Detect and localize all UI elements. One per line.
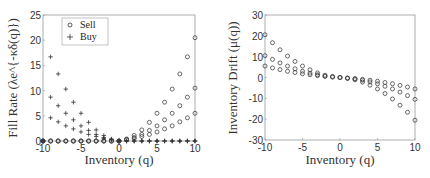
drift-point [376,79,380,83]
drift-point [391,87,395,91]
buy-point [170,139,174,143]
left-x-tick-label: 10 [189,143,201,154]
left-y-tick-label: 20 [30,35,42,46]
drift-point [271,57,275,61]
buy-point [56,104,60,108]
sell-point [147,128,151,132]
right-y-axis-label: Inventory Drift (μ(q)) [225,21,240,134]
drift-point [398,90,402,94]
buy-point [94,128,98,132]
fill-rate-chart: -10-505100510152025 Sell Buy Inventory (… [5,10,201,167]
left-legend: Sell Buy [62,18,108,45]
buy-point [64,111,68,115]
buy-point [71,118,75,122]
buy-point [178,139,182,143]
drift-point [406,85,410,89]
legend-sell-label: Sell [80,19,96,30]
right-x-tick-label: 10 [409,142,421,153]
buy-point [86,120,90,124]
drift-point [406,110,410,114]
sell-point [178,72,182,76]
buy-point [147,139,151,143]
sell-point [155,124,159,128]
drift-point [286,69,290,73]
figure: -10-505100510152025 Sell Buy Inventory (… [0,0,430,178]
buy-point [94,134,98,138]
left-x-tick-label: 5 [154,143,160,154]
buy-point [86,128,90,132]
drift-point [398,103,402,107]
left-y-axis-label: Fill Rate (λe^{-κδ(q)}) [5,18,20,138]
sell-point [178,120,182,124]
sell-point [170,111,174,115]
inventory-drift-chart: -10-50510-30-20-100102030 Inventory (q) … [225,10,421,167]
drift-point [271,41,275,45]
right-y-tick-label: 20 [252,31,264,42]
legend-buy-label: Buy [80,31,97,42]
right-y-tick-label: 0 [257,73,263,84]
sell-point [163,100,167,104]
right-x-axis-label: Inventory (q) [306,152,375,167]
left-y-tick-label: 25 [30,10,42,21]
buy-point [162,139,166,143]
buy-point [48,116,52,120]
drift-point [293,59,297,63]
drift-point [338,76,342,80]
sell-point [185,116,189,120]
buy-point [79,111,83,115]
buy-point [79,124,83,128]
buy-point [71,100,75,104]
buy-point [48,95,52,99]
buy-point [64,124,68,128]
buy-point [48,55,52,59]
sell-point [170,124,174,128]
right-y-tick-label: 30 [252,10,264,21]
drift-point [398,83,402,87]
sell-point [163,118,167,122]
drift-point [278,61,282,65]
right-x-tick-label: 5 [375,142,381,153]
right-y-tick-label: -10 [249,93,264,104]
buy-point [56,72,60,76]
left-x-axis-label: Inventory (q) [85,152,154,167]
buy-point [86,132,90,136]
buy-point [79,130,83,134]
sell-point [155,111,159,115]
drift-point [301,72,305,76]
drift-point [406,94,410,98]
sell-point [147,120,151,124]
left-y-tick-label: 5 [35,111,41,122]
right-plot-frame [265,15,415,140]
buy-point [140,139,144,143]
left-y-tick-label: 10 [30,86,42,97]
buy-point [71,127,75,131]
sell-point [170,87,174,91]
drift-point [278,48,282,52]
drift-point [271,66,275,70]
sell-point [155,130,159,134]
sell-point [178,104,182,108]
right-y-tick-label: -30 [249,135,264,146]
sell-point [140,128,144,132]
right-y-tick-label: -20 [249,114,264,125]
sell-point [185,95,189,99]
left-y-tick-label: 15 [30,60,42,71]
right-y-tick-label: 10 [252,52,264,63]
drift-point [391,82,395,86]
sell-point [163,127,167,131]
drift-point [383,92,387,96]
drift-point [286,64,290,68]
buy-point [64,87,68,91]
sell-point [147,132,151,136]
drift-point [301,64,305,68]
drift-point [278,68,282,72]
left-y-tick-label: 0 [35,136,41,147]
drift-point [286,54,290,58]
drift-point [376,87,380,91]
drift-point [391,97,395,101]
sell-point [185,55,189,59]
buy-point [56,120,60,124]
